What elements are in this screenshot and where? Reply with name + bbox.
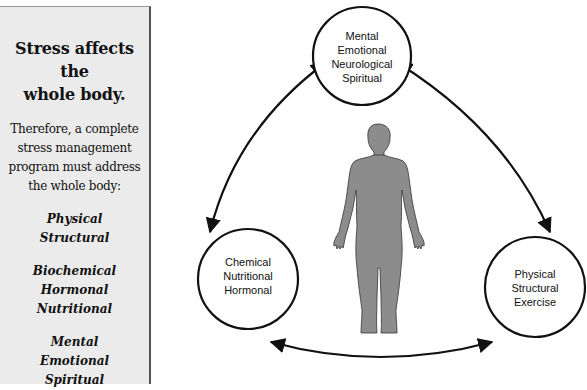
- svg-text:Structural: Structural: [511, 282, 558, 294]
- svg-text:Nutritional: Nutritional: [223, 270, 273, 282]
- svg-text:Spiritual: Spiritual: [342, 72, 382, 84]
- arrow-top-to-bottom-left: [210, 63, 325, 232]
- svg-text:Hormonal: Hormonal: [224, 284, 272, 296]
- svg-text:Exercise: Exercise: [514, 296, 556, 308]
- svg-text:Chemical: Chemical: [225, 256, 271, 268]
- arrow-top-to-bottom-right: [398, 63, 550, 232]
- arrow-bottom-left-to-bottom-right: [271, 342, 492, 357]
- svg-text:Mental: Mental: [345, 30, 378, 42]
- svg-text:Physical: Physical: [515, 268, 556, 280]
- node-mental: Mental Emotional Neurological Spiritual: [313, 7, 411, 105]
- node-chemical: Chemical Nutritional Hormonal: [198, 229, 298, 329]
- human-body-icon: [334, 124, 424, 333]
- node-physical: Physical Structural Exercise: [485, 237, 585, 337]
- svg-text:Emotional: Emotional: [338, 44, 387, 56]
- svg-text:Neurological: Neurological: [331, 58, 392, 70]
